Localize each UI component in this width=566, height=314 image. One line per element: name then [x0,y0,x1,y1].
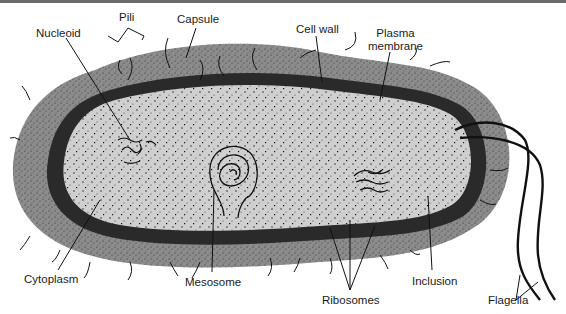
label-capsule: Capsule [177,13,219,26]
cytoplasm [63,85,471,231]
label-cell-wall: Cell wall [296,23,339,36]
label-ribosomes: Ribosomes [322,294,380,307]
label-nucleoid: Nucleoid [36,27,81,40]
label-flagella: Flagella [488,294,528,307]
label-mesosome: Mesosome [185,276,241,289]
label-cytoplasm: Cytoplasm [24,273,78,286]
label-inclusion: Inclusion [412,275,457,288]
bacterium-illustration [0,0,566,314]
label-plasma-membrane: Plasma membrane [368,27,423,53]
label-pili: Pili [119,11,134,24]
label-plasma-membrane-line2: membrane [368,40,423,53]
label-plasma-membrane-line1: Plasma [368,27,423,40]
